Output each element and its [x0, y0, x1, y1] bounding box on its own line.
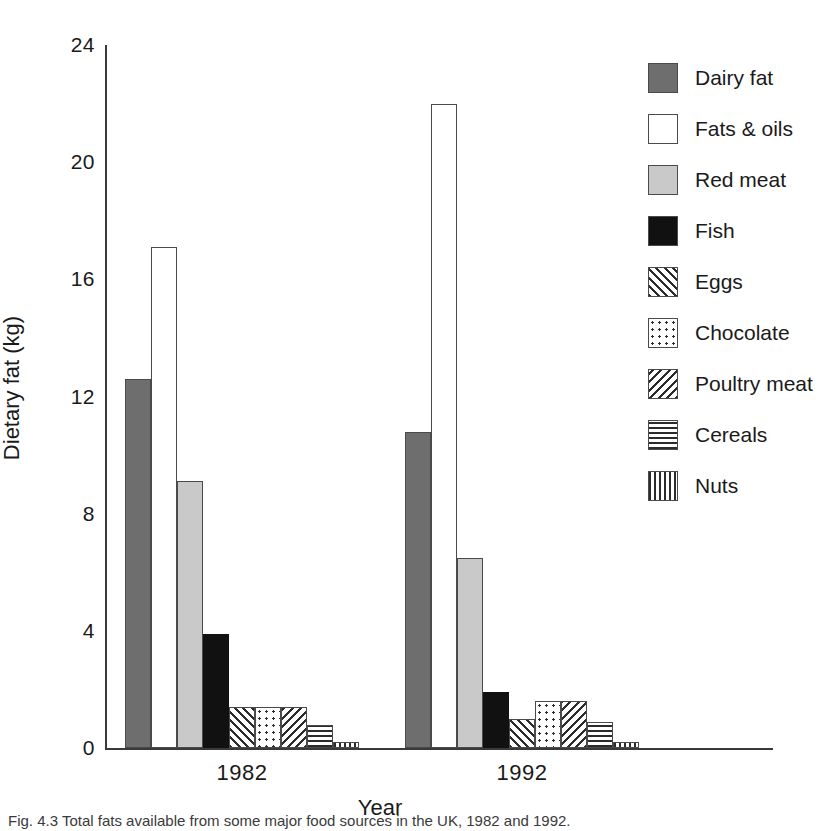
- bar-red-meat-1982: [177, 481, 203, 748]
- legend-item-red-meat[interactable]: Red meat: [648, 154, 822, 205]
- legend-swatch-icon: [648, 420, 678, 450]
- bar-fats-oils-1992: [431, 104, 457, 748]
- y-tick-label: 4: [23, 620, 95, 641]
- bar-cereals-1982: [307, 725, 333, 748]
- legend-item-eggs[interactable]: Eggs: [648, 256, 822, 307]
- figure-caption: Fig. 4.3 Total fats available from some …: [8, 812, 818, 829]
- legend-item-label: Fish: [695, 219, 735, 243]
- x-axis-line: [105, 748, 773, 750]
- y-tick-label: 24: [23, 34, 95, 55]
- legend-item-nuts[interactable]: Nuts: [648, 460, 822, 511]
- legend-item-label: Poultry meat: [695, 372, 813, 396]
- bar-fats-oils-1982: [151, 247, 177, 748]
- legend-item-label: Eggs: [695, 270, 743, 294]
- legend-item-label: Fats & oils: [695, 117, 793, 141]
- legend-item-label: Nuts: [695, 474, 738, 498]
- legend-swatch-icon: [648, 471, 678, 501]
- bar-dairy-fat-1992: [405, 432, 431, 748]
- y-tick-label: 8: [23, 503, 95, 524]
- bar-dairy-fat-1982: [125, 379, 151, 748]
- bar-red-meat-1992: [457, 558, 483, 748]
- legend-swatch-icon: [648, 318, 678, 348]
- legend-swatch-icon: [648, 114, 678, 144]
- bar-cereals-1992: [587, 722, 613, 748]
- y-tick-label: 12: [23, 386, 95, 407]
- y-tick-label: 20: [23, 151, 95, 172]
- bar-poultry-meat-1982: [281, 707, 307, 748]
- figure-container: 04812162024 Dietary fat (kg) 19821992 Ye…: [0, 0, 822, 831]
- bar-chocolate-1982: [255, 707, 281, 748]
- y-tick-label: 0: [23, 737, 95, 758]
- bar-group-1992: [405, 45, 639, 748]
- bar-chocolate-1992: [535, 701, 561, 748]
- x-tick-label-1982: 1982: [172, 760, 312, 786]
- legend-item-fats-oils[interactable]: Fats & oils: [648, 103, 822, 154]
- legend-item-chocolate[interactable]: Chocolate: [648, 307, 822, 358]
- legend-swatch-icon: [648, 216, 678, 246]
- legend-item-poultry-meat[interactable]: Poultry meat: [648, 358, 822, 409]
- x-tick-label-1992: 1992: [452, 760, 592, 786]
- legend-swatch-icon: [648, 369, 678, 399]
- legend-item-cereals[interactable]: Cereals: [648, 409, 822, 460]
- legend-item-label: Cereals: [695, 423, 767, 447]
- legend-swatch-icon: [648, 63, 678, 93]
- bar-nuts-1982: [333, 742, 359, 748]
- bar-poultry-meat-1992: [561, 701, 587, 748]
- legend-swatch-icon: [648, 267, 678, 297]
- bar-nuts-1992: [613, 742, 639, 748]
- legend-item-dairy-fat[interactable]: Dairy fat: [648, 52, 822, 103]
- bar-fish-1992: [483, 692, 509, 748]
- legend-item-label: Chocolate: [695, 321, 790, 345]
- bar-group-1982: [125, 45, 359, 748]
- legend-item-label: Dairy fat: [695, 66, 773, 90]
- bar-eggs-1992: [509, 719, 535, 748]
- legend-item-fish[interactable]: Fish: [648, 205, 822, 256]
- plot-area: [105, 45, 640, 748]
- y-tick-label: 16: [23, 268, 95, 289]
- legend-swatch-icon: [648, 165, 678, 195]
- legend-item-label: Red meat: [695, 168, 786, 192]
- legend: Dairy fatFats & oilsRed meatFishEggsChoc…: [648, 52, 822, 511]
- y-axis-title: Dietary fat (kg): [0, 108, 25, 668]
- bar-eggs-1982: [229, 707, 255, 748]
- bar-fish-1982: [203, 634, 229, 748]
